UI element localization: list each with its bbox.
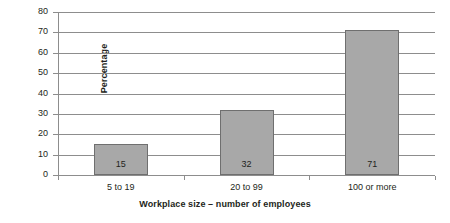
bar-chart: Percentage 01020304050607080 153271 5 to… (0, 0, 450, 223)
y-tick-label: 70 (24, 27, 48, 36)
gridline (58, 12, 435, 13)
y-tick-label: 20 (24, 129, 48, 138)
x-category-label: 5 to 19 (58, 182, 184, 193)
x-tick-mark (435, 176, 436, 180)
bar-value-label: 71 (346, 159, 398, 169)
x-category-label: 20 to 99 (184, 182, 310, 193)
bar-value-label: 32 (221, 159, 273, 169)
y-tick-label: 40 (24, 89, 48, 98)
bar[interactable]: 71 (345, 30, 399, 175)
y-tick-label: 0 (24, 170, 48, 179)
x-axis-line (58, 175, 435, 176)
bar[interactable]: 32 (220, 110, 274, 175)
y-tick-label: 30 (24, 109, 48, 118)
x-tick-mark (309, 176, 310, 180)
x-category-label: 100 or more (309, 182, 435, 193)
bar-value-label: 15 (95, 159, 147, 169)
y-tick-label: 80 (24, 7, 48, 16)
y-tick-label: 10 (24, 150, 48, 159)
x-axis-title: Workplace size – number of employees (0, 199, 450, 209)
y-tick-label: 60 (24, 48, 48, 57)
plot-area: 153271 (58, 12, 435, 175)
x-tick-mark (58, 176, 59, 180)
x-tick-mark (184, 176, 185, 180)
y-tick-label: 50 (24, 68, 48, 77)
bar[interactable]: 15 (94, 144, 148, 175)
